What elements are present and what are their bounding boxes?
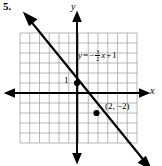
coordinate-plane-svg: [0, 0, 162, 166]
equation-variable: x: [101, 50, 105, 61]
equation-plus: +: [106, 50, 111, 61]
equation-fraction: 3 2: [95, 49, 100, 62]
y-axis: [74, 13, 81, 162]
point-coordinate-label: (2, −2): [105, 102, 130, 111]
equation-minus: −: [89, 50, 94, 61]
y-intercept-label: 1: [64, 76, 69, 85]
equation-lhs: y: [78, 50, 82, 61]
y-axis-label: y: [71, 2, 75, 12]
point-2-neg2: [93, 110, 99, 116]
equation-label: y = − 3 2 x + 1: [78, 49, 117, 62]
fraction-denominator: 2: [95, 55, 100, 62]
x-axis-label: x: [150, 86, 154, 96]
point-y-intercept: [74, 80, 80, 86]
equation-constant: 1: [112, 50, 117, 61]
equation-equals: =: [83, 50, 88, 61]
graph-figure: 5.: [0, 0, 162, 166]
